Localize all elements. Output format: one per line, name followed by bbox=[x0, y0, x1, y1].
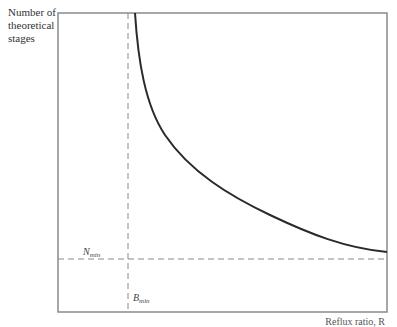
bmin-sub: min bbox=[139, 297, 150, 305]
bmin-label: Bmin bbox=[133, 292, 150, 305]
plot-frame bbox=[58, 13, 387, 312]
nmin-label: Nmin bbox=[83, 246, 100, 259]
x-axis-label: Reflux ratio, R bbox=[325, 316, 385, 327]
nmin-main: N bbox=[83, 246, 90, 257]
stages-curve bbox=[135, 13, 387, 252]
nmin-sub: min bbox=[90, 251, 101, 259]
